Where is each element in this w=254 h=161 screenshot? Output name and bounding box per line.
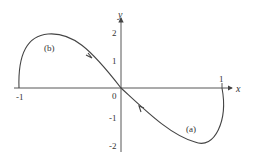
y-axis-label: y xyxy=(117,9,123,20)
x-axis-label: x xyxy=(235,83,241,94)
curve-b xyxy=(19,34,121,88)
tick-label-y-1: 1 xyxy=(112,56,117,66)
tick-label-x-1: 1 xyxy=(219,74,224,84)
tick-label-y-neg1: -1 xyxy=(109,113,117,123)
tick-label-y-2: 2 xyxy=(112,28,117,38)
tick-label-y-neg2: -2 xyxy=(109,141,117,151)
tick-label-x-neg1: -1 xyxy=(16,92,24,102)
phase-plot: x y -1 0 1 2 1 -1 -2 (b) (a) xyxy=(0,0,254,161)
curve-b-label: (b) xyxy=(44,43,55,53)
curve-a-label: (a) xyxy=(186,124,196,134)
curve-a xyxy=(121,88,223,143)
tick-label-x-0: 0 xyxy=(112,91,117,101)
